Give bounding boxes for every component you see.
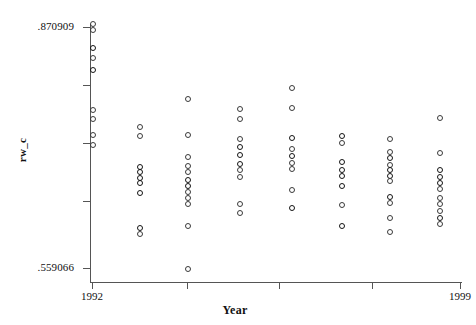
x-tick-label: 1999 — [440, 291, 476, 302]
x-tick-mark — [372, 282, 373, 289]
data-point — [237, 201, 243, 207]
x-tick-mark — [279, 282, 280, 289]
data-point — [185, 169, 191, 175]
data-point — [289, 205, 295, 211]
y-tick-mark — [83, 27, 90, 28]
data-point — [339, 223, 345, 229]
data-point — [185, 266, 191, 272]
data-point — [339, 183, 345, 189]
y-tick-mark — [83, 201, 90, 202]
data-point — [289, 166, 295, 172]
data-point — [237, 116, 243, 122]
data-point — [339, 173, 345, 179]
data-point — [90, 55, 96, 61]
data-point — [90, 142, 96, 148]
data-point — [387, 200, 393, 206]
data-point — [237, 144, 243, 150]
x-axis-title: Year — [205, 303, 265, 318]
data-point — [339, 140, 345, 146]
data-point — [339, 202, 345, 208]
y-axis-title: rw_c — [16, 120, 28, 180]
data-point — [289, 85, 295, 91]
data-point — [437, 150, 443, 156]
data-point — [185, 96, 191, 102]
data-point — [437, 167, 443, 173]
data-point — [237, 210, 243, 216]
data-point — [289, 153, 295, 159]
data-point — [289, 187, 295, 193]
y-tick-label: .870909 — [8, 21, 74, 32]
data-point — [237, 174, 243, 180]
data-point — [237, 136, 243, 142]
data-point — [185, 223, 191, 229]
data-point — [90, 67, 96, 73]
data-point — [387, 229, 393, 235]
x-tick-label: 1992 — [72, 291, 112, 302]
y-tick-label: .559066 — [8, 262, 74, 273]
data-point — [437, 221, 443, 227]
data-point — [137, 180, 143, 186]
data-point — [437, 186, 443, 192]
data-point — [339, 133, 345, 139]
data-point — [289, 105, 295, 111]
data-point — [437, 201, 443, 207]
data-point — [185, 132, 191, 138]
data-point — [437, 208, 443, 214]
data-point — [437, 115, 443, 121]
data-point — [289, 135, 295, 141]
data-point — [387, 136, 393, 142]
data-point — [289, 146, 295, 152]
y-axis-line — [90, 24, 91, 282]
y-tick-mark — [83, 268, 90, 269]
x-tick-mark — [460, 282, 461, 289]
data-point — [237, 106, 243, 112]
data-point — [237, 152, 243, 158]
x-axis-line — [90, 282, 462, 283]
data-point — [90, 116, 96, 122]
y-tick-mark — [83, 85, 90, 86]
data-point — [387, 178, 393, 184]
data-point — [90, 45, 96, 51]
data-point — [185, 154, 191, 160]
data-point — [339, 159, 345, 165]
data-point — [90, 107, 96, 113]
data-point — [237, 167, 243, 173]
data-point — [90, 27, 96, 33]
data-point — [185, 201, 191, 207]
y-tick-mark — [83, 143, 90, 144]
data-point — [387, 215, 393, 221]
data-point — [137, 124, 143, 130]
data-point — [90, 132, 96, 138]
data-point — [137, 133, 143, 139]
data-point — [137, 190, 143, 196]
x-tick-mark — [187, 282, 188, 289]
data-point — [387, 155, 393, 161]
data-point — [137, 231, 143, 237]
x-tick-mark — [92, 282, 93, 289]
